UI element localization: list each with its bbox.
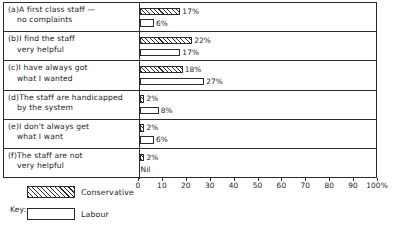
row-label: (c)I have always gotwhat I wanted — [8, 63, 132, 89]
bar-conservative — [140, 124, 145, 131]
bar-value-conservative: 2% — [146, 124, 158, 131]
bar-conservative — [140, 8, 181, 15]
bar-labour — [140, 136, 154, 143]
bar-value-conservative: 18% — [185, 66, 202, 73]
row-label-line1: (f)The staff are not — [8, 151, 83, 160]
row-bars: 2%Nil — [140, 149, 377, 178]
row-label-line2: by the system — [8, 103, 132, 113]
row-label-line1: (c)I have always got — [8, 63, 88, 72]
bar-value-labour: 8% — [161, 107, 173, 114]
legend-label-conservative: Conservative — [81, 188, 134, 197]
plot-frame: (a)A first class staff —no complaints17%… — [3, 2, 377, 178]
chart-row: (e)I don't always getwhat I want2%6% — [4, 120, 376, 149]
legend-label-labour: Labour — [81, 210, 109, 219]
legend-swatch-labour — [27, 208, 75, 220]
bar-value-conservative: 2% — [146, 95, 158, 102]
row-label-line2: very helpful — [8, 45, 132, 55]
bar-chart: (a)A first class staff —no complaints17%… — [0, 0, 402, 231]
bar-value-labour: 17% — [182, 49, 199, 56]
bar-conservative — [140, 154, 145, 161]
legend-swatch-conservative — [27, 186, 75, 198]
chart-row: (f)The staff are notvery helpful2%Nil — [4, 149, 376, 178]
bar-value-labour: Nil — [141, 166, 151, 173]
bar-conservative — [140, 95, 145, 102]
row-label-line1: (e)I don't always get — [8, 122, 89, 131]
legend: Key: Conservative Labour — [0, 186, 402, 231]
bar-labour — [140, 78, 205, 85]
row-label: (a)A first class staff —no complaints — [8, 5, 132, 31]
bar-value-labour: 6% — [156, 136, 168, 143]
chart-row: (d)The staff are handicappedby the syste… — [4, 91, 376, 120]
row-bars: 17%6% — [140, 3, 377, 31]
row-label-line2: no complaints — [8, 15, 132, 25]
row-label-line1: (b)I find the staff — [8, 34, 75, 43]
row-label-line1: (a)A first class staff — — [8, 5, 95, 14]
row-bars: 2%8% — [140, 91, 377, 119]
row-label-line2: what I want — [8, 132, 132, 142]
chart-row: (a)A first class staff —no complaints17%… — [4, 3, 376, 32]
row-bars: 18%27% — [140, 61, 377, 89]
bar-value-labour: 27% — [206, 78, 223, 85]
bar-value-labour: 6% — [156, 20, 168, 27]
row-label: (e)I don't always getwhat I want — [8, 122, 132, 148]
bar-labour — [140, 19, 154, 26]
row-label: (b)I find the staffvery helpful — [8, 34, 132, 60]
bar-labour — [140, 107, 159, 114]
row-label-line2: what I wanted — [8, 74, 132, 84]
row-label: (f)The staff are notvery helpful — [8, 151, 132, 177]
row-bars: 22%17% — [140, 32, 377, 60]
bar-labour — [140, 49, 181, 56]
chart-row: (b)I find the staffvery helpful22%17% — [4, 32, 376, 61]
bar-value-conservative: 17% — [182, 8, 199, 15]
bar-conservative — [140, 37, 193, 44]
bar-value-conservative: 22% — [194, 37, 211, 44]
row-label-line1: (d)The staff are handicapped — [8, 93, 123, 102]
chart-row: (c)I have always gotwhat I wanted18%27% — [4, 61, 376, 90]
row-label-line2: very helpful — [8, 161, 132, 171]
bar-conservative — [140, 66, 183, 73]
bar-value-conservative: 2% — [146, 154, 158, 161]
legend-key-label: Key: — [10, 205, 26, 214]
row-label: (d)The staff are handicappedby the syste… — [8, 93, 132, 119]
row-bars: 2%6% — [140, 120, 377, 148]
